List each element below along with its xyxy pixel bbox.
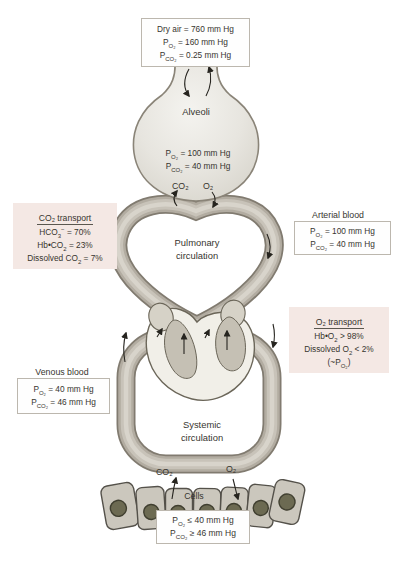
venous-blood-box: PO₂ = 40 mm Hg PCO₂ = 46 mm Hg (17, 378, 110, 414)
arterial-blood-box: PO₂ = 100 mm Hg PCO₂ = 40 mm Hg (294, 221, 391, 255)
transport-line: Hb•CO2 = 23% (15, 239, 115, 252)
pressure-line: PO₂ = 160 mm Hg (144, 36, 247, 49)
pressure-line: Dry air = 760 mm Hg (144, 23, 247, 36)
dry-air-box: Dry air = 760 mm Hg PO₂ = 160 mm Hg PCO₂… (141, 18, 250, 67)
pressure-line: PCO₂ = 40 mm Hg (296, 238, 389, 251)
transport-line: Dissolved CO2 = 7% (15, 252, 115, 265)
co2-label-cells: CO₂ (156, 467, 173, 477)
heart (145, 298, 254, 401)
o2-transport-box: O₂ transport Hb•O2 > 98% Dissolved O2 < … (289, 307, 389, 373)
transport-line: Hb•O2 > 98% (290, 330, 388, 343)
co2-transport-box: CO₂ transport HCO3− = 70% Hb•CO2 = 23% D… (13, 203, 117, 269)
cell-nucleus (253, 500, 269, 516)
venous-blood-heading: Venous blood (20, 367, 104, 377)
cells-label: Cells (173, 491, 215, 501)
pressure-line: PCO₂ ≥ 46 mm Hg (158, 527, 248, 540)
pulmonary-loop (118, 204, 274, 332)
co2-transport-title: CO₂ transport (37, 213, 94, 225)
transport-line: (~PO₂) (290, 356, 388, 369)
cells-pressure-box: PO₂ ≤ 40 mm Hg PCO₂ ≥ 46 mm Hg (156, 510, 250, 544)
gas-transport-diagram: Dry air = 760 mm Hg PO₂ = 160 mm Hg PCO₂… (0, 0, 395, 564)
transport-line: Dissolved O2 < 2% (290, 343, 388, 356)
alveoli-label: Alveoli (166, 106, 226, 119)
alveoli-balloon (133, 60, 258, 201)
pressure-line: PCO₂ = 40 mm Hg (135, 160, 261, 173)
pressure-line: PO₂ = 40 mm Hg (19, 383, 108, 396)
o2-label-alveoli: O₂ (203, 181, 213, 191)
arterial-blood-heading: Arterial blood (293, 210, 383, 220)
systemic-down-arrow (273, 324, 275, 347)
systemic-label: Systemic circulation (152, 419, 252, 444)
pressure-line: PO₂ ≤ 40 mm Hg (158, 514, 248, 527)
alveoli-pressures: PO₂ = 100 mm Hg PCO₂ = 40 mm Hg (135, 147, 261, 173)
o2-label-cells: O₂ (226, 464, 236, 474)
co2-label-alveoli: CO₂ (172, 181, 189, 191)
pressure-line: PO₂ = 100 mm Hg (296, 225, 389, 238)
pulmonary-label: Pulmonary circulation (147, 237, 247, 262)
o2-transport-title: O₂ transport (314, 317, 364, 329)
pressure-line: PCO₂ = 46 mm Hg (19, 396, 108, 409)
pressure-line: PCO₂ = 0.25 mm Hg (144, 49, 247, 62)
diagram-artwork (0, 0, 395, 564)
pressure-line: PO₂ = 100 mm Hg (135, 147, 261, 160)
transport-line: HCO3− = 70% (15, 226, 115, 239)
